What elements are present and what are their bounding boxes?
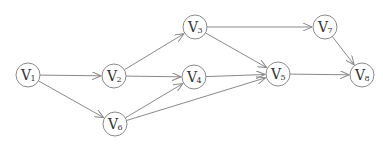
node-subscript: 5: [281, 73, 286, 82]
edge-v6-to-v4: [125, 84, 183, 118]
node-v1: V1: [16, 63, 40, 87]
edge-v5-to-v8: [290, 74, 349, 75]
node-subscript: 8: [365, 74, 370, 83]
node-subscript: 4: [197, 76, 202, 85]
node-v3: V3: [183, 15, 207, 39]
edge-v3-to-v5: [205, 33, 266, 68]
node-v2: V2: [102, 64, 126, 88]
graph-canvas: V1V2V3V4V5V6V7V8: [0, 0, 383, 148]
node-subscript: 2: [117, 75, 122, 84]
directed-graph: V1V2V3V4V5V6V7V8: [0, 0, 383, 148]
edge-v4-to-v5: [206, 75, 265, 77]
edge-v1-to-v2: [40, 75, 101, 76]
node-subscript: 1: [31, 74, 36, 83]
node-v7: V7: [313, 15, 337, 39]
edge-v1-to-v6: [39, 81, 104, 118]
edge-v2-to-v3: [124, 34, 184, 70]
node-v6: V6: [103, 112, 127, 136]
node-subscript: 7: [328, 26, 333, 35]
node-v4: V4: [182, 65, 206, 89]
node-v8: V8: [350, 63, 374, 87]
node-subscript: 3: [198, 26, 203, 35]
edge-v7-to-v8: [332, 37, 354, 65]
edge-v2-to-v4: [126, 76, 181, 77]
node-subscript: 6: [118, 123, 123, 132]
node-v5: V5: [266, 62, 290, 86]
